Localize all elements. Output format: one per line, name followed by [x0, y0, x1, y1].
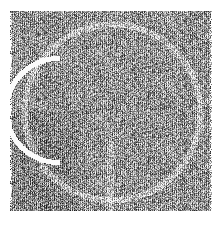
noisy-halftone-image: [0, 0, 222, 228]
texture-canvas: [0, 0, 222, 228]
